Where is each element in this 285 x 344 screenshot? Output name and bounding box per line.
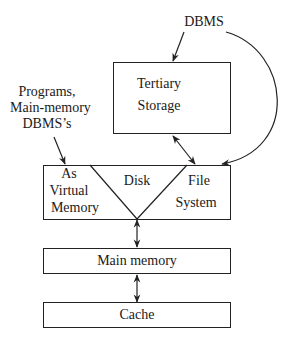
- programs-label: Programs, Main-memory DBMS’s: [10, 84, 84, 132]
- virtual-memory-line2: Virtual: [47, 183, 91, 199]
- programs-line3: DBMS’s: [10, 116, 84, 132]
- cache-label: Cache: [44, 307, 230, 323]
- tertiary-disk-double-arrow: [173, 136, 195, 164]
- disk-label: Disk: [117, 173, 157, 189]
- disk-box: As Virtual Memory Disk File System: [43, 165, 231, 220]
- tertiary-line2: Storage: [134, 98, 184, 114]
- cache-box: Cache: [43, 302, 231, 328]
- programs-line1: Programs,: [10, 84, 84, 100]
- dbms-label: DBMS: [180, 14, 228, 30]
- tertiary-line1: Tertiary: [134, 76, 184, 92]
- programs-to-virtual-memory-arrow: [54, 137, 65, 164]
- dbms-to-tertiary-arrow: [173, 32, 184, 61]
- main-memory-box: Main memory: [43, 248, 231, 274]
- virtual-memory-line1: As: [47, 166, 91, 182]
- file-system-line2: System: [166, 195, 226, 211]
- tertiary-storage-box: Tertiary Storage: [113, 62, 231, 134]
- file-system-line1: File: [179, 173, 219, 189]
- virtual-memory-line3: Memory: [45, 200, 105, 216]
- main-memory-label: Main memory: [44, 253, 230, 269]
- programs-line2: Main-memory: [10, 100, 84, 116]
